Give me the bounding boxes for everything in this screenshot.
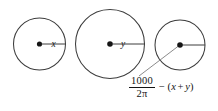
fraction-denominator: 2π bbox=[135, 88, 150, 99]
fraction-numerator: 1000 bbox=[129, 76, 155, 87]
plus-operator: + bbox=[176, 81, 185, 92]
circle-group-3 bbox=[139, 20, 205, 76]
circle-group-1: x bbox=[14, 18, 66, 70]
center-dot-3 bbox=[177, 42, 183, 48]
radius-label-x: x bbox=[51, 39, 57, 49]
radius-label-y: y bbox=[120, 39, 126, 49]
fraction-1000-over-2pi: 1000 2π bbox=[129, 76, 155, 99]
radius-formula-label: 1000 2π − (x+y) bbox=[128, 76, 194, 99]
circle-group-2: y bbox=[76, 10, 145, 79]
center-dot-1 bbox=[37, 41, 42, 46]
close-paren: ) bbox=[190, 81, 194, 92]
leader-line-to-formula bbox=[139, 46, 179, 76]
minus-operator: − bbox=[159, 82, 165, 93]
center-dot-2 bbox=[107, 41, 113, 47]
parenthesized-sum: (x+y) bbox=[167, 82, 193, 93]
circles-diagram: x y 1000 2π − (x+y) bbox=[0, 0, 218, 111]
